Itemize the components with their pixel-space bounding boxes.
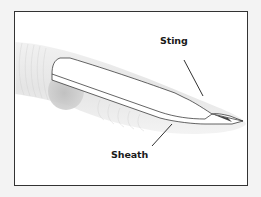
sting-sheath-illustration <box>0 0 261 197</box>
sting-label: Sting <box>160 35 188 46</box>
sting-leader-line <box>184 60 203 96</box>
sheath-label: Sheath <box>111 149 148 160</box>
